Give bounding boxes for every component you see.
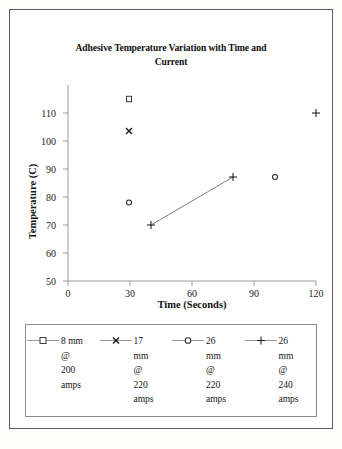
legend-label-line: mm <box>206 351 221 361</box>
open-circle-marker-icon <box>171 334 205 347</box>
data-point-open-circle <box>127 200 132 205</box>
series-1-points <box>127 96 132 101</box>
x-tick-label: 60 <box>187 288 197 299</box>
x-tick-label: 0 <box>66 288 71 299</box>
legend-label-line: 240 <box>279 380 293 390</box>
x-cross-marker-icon <box>99 334 133 347</box>
legend-label-line: @ <box>61 351 70 361</box>
legend-label-line: amps <box>61 380 81 390</box>
legend-label-line: 26 <box>279 336 289 346</box>
data-point-open-square <box>127 96 132 101</box>
x-tick-label: 30 <box>125 288 135 299</box>
series-4-points <box>147 109 320 229</box>
x-axis-title: Time (Seconds) <box>68 299 316 310</box>
legend-label-line: amps <box>279 394 299 404</box>
legend-item-8mm-200amps[interactable]: 8 mm @ 200 amps <box>26 325 99 416</box>
legend-label-line: amps <box>134 394 154 404</box>
chart-legend: 8 mm @ 200 amps <box>25 324 317 417</box>
legend-label: 8 mm @ 200 amps <box>60 334 83 392</box>
legend-label-line: 8 mm <box>61 336 83 346</box>
legend-item-26mm-240amps[interactable]: 26 mm @ 240 amps <box>244 325 317 416</box>
y-tick-label: 50 <box>26 276 56 287</box>
legend-label-line: 220 <box>206 380 220 390</box>
x-axis-ticks <box>68 281 316 286</box>
legend-label-line: amps <box>206 394 226 404</box>
legend-label-line: mm <box>279 351 294 361</box>
legend-label-line: @ <box>206 365 215 375</box>
x-tick-label: 120 <box>309 288 324 299</box>
legend-label-line: mm <box>134 351 149 361</box>
y-axis-title: Temperature (C) <box>27 137 38 267</box>
plot-area: 110 100 90 80 70 60 50 0 30 60 90 120 Te… <box>0 0 342 300</box>
legend-label-line: 17 <box>134 336 144 346</box>
plus-marker-icon <box>244 334 278 347</box>
chart-page: Adhesive Temperature Variation with Time… <box>0 0 342 449</box>
legend-label-line: 200 <box>61 365 75 375</box>
legend-label: 26 mm @ 240 amps <box>278 334 299 407</box>
data-point-open-circle <box>273 175 278 180</box>
legend-item-26mm-220amps[interactable]: 26 mm @ 220 amps <box>171 325 244 416</box>
series-3-points <box>127 175 278 206</box>
series-4-connector <box>151 177 233 225</box>
y-tick-label: 110 <box>26 108 56 119</box>
legend-label-line: @ <box>134 365 143 375</box>
open-square-marker-icon <box>26 334 60 347</box>
legend-label: 26 mm @ 220 amps <box>205 334 226 407</box>
legend-label-line: @ <box>279 365 288 375</box>
legend-label-line: 26 <box>206 336 216 346</box>
legend-label-line: 220 <box>134 380 148 390</box>
y-axis-ticks <box>63 113 68 281</box>
legend-label: 17 mm @ 220 amps <box>133 334 154 407</box>
legend-item-17mm-220amps[interactable]: 17 mm @ 220 amps <box>99 325 172 416</box>
x-tick-label: 90 <box>249 288 259 299</box>
series-2-points <box>126 128 132 134</box>
